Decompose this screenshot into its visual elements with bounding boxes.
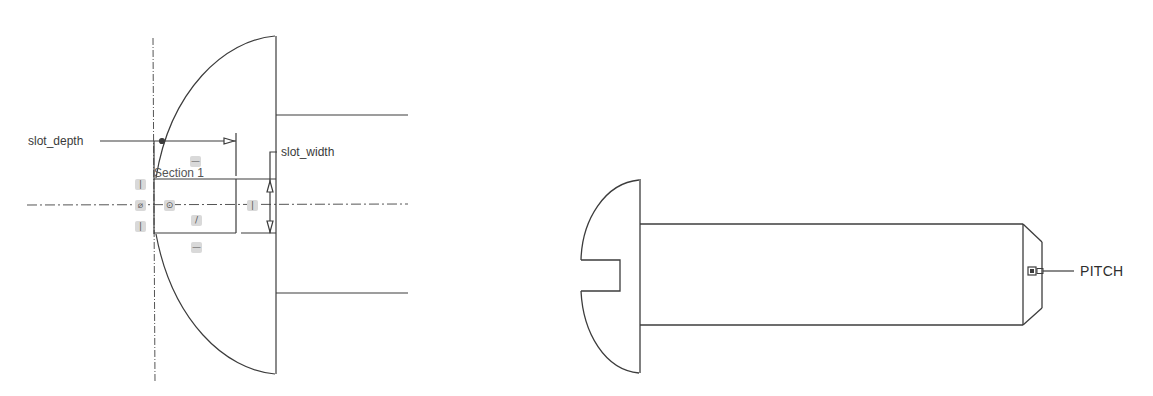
- pitch-marker-inner: [1030, 269, 1034, 273]
- horizontal-constraint-icon[interactable]: —: [190, 156, 201, 167]
- head-arc-top: [156, 36, 275, 178]
- screw-head-arc-top: [581, 180, 639, 260]
- right-screw-view: [581, 179, 1074, 373]
- tangent-constraint-icon[interactable]: ⌀: [135, 200, 146, 211]
- slot-depth-arrow: [224, 138, 234, 144]
- drawing-canvas: [0, 0, 1153, 396]
- vertical-constraint-icon[interactable]: |: [135, 179, 146, 190]
- pitch-label[interactable]: PITCH: [1080, 263, 1124, 279]
- screw-head-arc-bottom: [581, 291, 639, 373]
- slot-depth-point: [160, 139, 165, 144]
- slot-width-arrow-bottom: [267, 221, 273, 232]
- coincident-constraint-icon[interactable]: ⊙: [164, 200, 175, 211]
- screw-chamfer-top: [1023, 224, 1042, 242]
- left-sketch: [27, 36, 408, 383]
- horizontal-centerline: [27, 204, 408, 205]
- section-label: Section 1: [154, 166, 204, 180]
- screw-slot: [581, 260, 620, 291]
- slot-depth-label[interactable]: slot_depth: [28, 134, 83, 148]
- slot-width-label[interactable]: slot_width: [281, 145, 334, 159]
- screw-chamfer-bottom: [1023, 308, 1042, 325]
- horizontal-constraint-icon[interactable]: —: [191, 242, 202, 253]
- slot-width-arrow-top: [267, 181, 273, 192]
- vertical-constraint-icon[interactable]: |: [247, 200, 258, 211]
- diagonal-constraint-icon[interactable]: /: [191, 215, 202, 226]
- head-arc-bottom: [156, 234, 275, 374]
- vertical-constraint-icon[interactable]: |: [135, 221, 146, 232]
